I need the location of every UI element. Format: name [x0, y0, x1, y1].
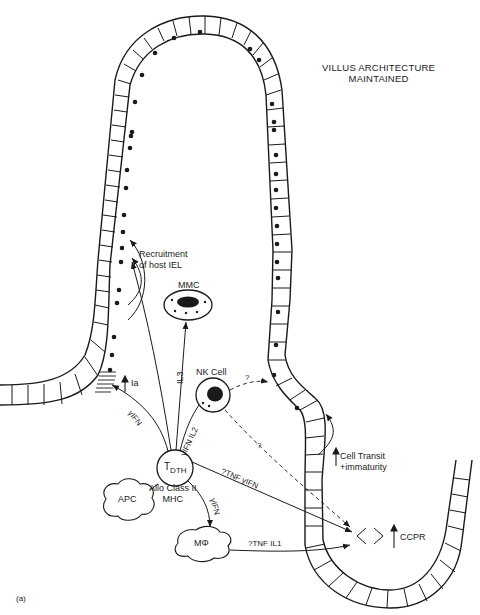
nk-question-1: ? [245, 372, 249, 383]
nk-question-2: ? [257, 440, 261, 451]
ccpr-label: CCPR [400, 532, 426, 543]
mmc-label: MMC [178, 280, 200, 291]
macrophage-label: MΦ [194, 538, 209, 549]
allo-class-line1: Allo Class II [149, 483, 197, 494]
epithelium [0, 16, 472, 608]
nk-arrow-to-crypt [225, 410, 350, 527]
allo-class-label: Allo Class II MHC [149, 483, 197, 505]
recruitment-label-line2: of host IEL [139, 260, 188, 271]
il3-label: IL3 [175, 371, 186, 384]
nk-dashed-arrows [225, 381, 350, 527]
iel-nuclei [108, 30, 300, 411]
panel-label: (a) [16, 593, 26, 604]
nk-cell [196, 378, 230, 412]
ia-label: Ia [131, 378, 139, 389]
apc-label: APC [118, 494, 137, 505]
recruitment-label: Recruitment of host IEL [139, 249, 188, 271]
recruitment-label-line1: Recruitment [139, 249, 188, 260]
arrow-il3-to-mmc [176, 322, 186, 450]
tnf-il1-label: ?TNF IL1 [248, 538, 281, 549]
mmc-cell [164, 290, 212, 320]
cell-transit-line2: +immaturity [340, 462, 387, 473]
epithelium-outer-wall [0, 16, 456, 590]
figure-title-line2: MAINTAINED [322, 73, 435, 84]
crypt-cell-symbol [357, 528, 383, 544]
nk-cell-label: NK Cell [196, 367, 227, 378]
allo-class-line2: MHC [149, 494, 197, 505]
t-dth-sub: DTH [170, 466, 186, 475]
cell-transit-label: Cell Transit +immaturity [340, 451, 387, 473]
t-dth-label: TDTH [164, 461, 187, 473]
villus-diagram [0, 0, 480, 615]
epithelial-cell-boundaries [12, 16, 470, 608]
figure-title: VILLUS ARCHITECTURE MAINTAINED [322, 62, 435, 84]
cell-transit-line1: Cell Transit [340, 451, 387, 462]
figure-title-line1: VILLUS ARCHITECTURE [322, 62, 435, 73]
epithelium-inner-wall [0, 34, 472, 608]
